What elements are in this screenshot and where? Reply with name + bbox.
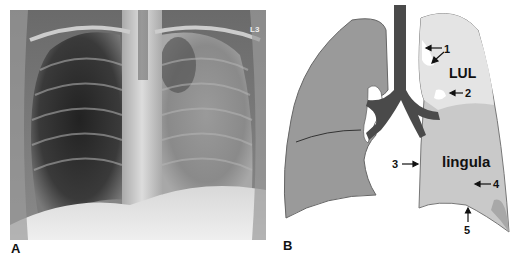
arrow-label-3: 3: [392, 158, 398, 170]
panel-label-a: A: [11, 241, 20, 256]
lung-diagram: 1 LUL 2 3 lingula 4 5: [266, 0, 518, 260]
region-label-lingula: lingula: [442, 153, 491, 170]
region-label-lul: LUL: [449, 65, 477, 81]
panel-label-b: B: [283, 238, 292, 253]
chest-radiograph: L3: [10, 10, 266, 240]
arrow-label-5: 5: [464, 224, 470, 236]
arrow-label-1: 1: [444, 43, 450, 55]
arrow-label-4: 4: [493, 178, 500, 190]
radiograph-image: L3: [10, 10, 266, 240]
radiograph-marker: L3: [250, 25, 260, 34]
arrow-label-2: 2: [465, 87, 471, 99]
